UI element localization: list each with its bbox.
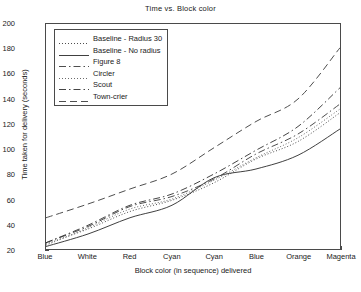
legend-item[interactable]: Scout — [59, 79, 162, 91]
y-axis-label: Time taken for delivery (seconds) — [20, 35, 29, 215]
legend-item[interactable]: Baseline - No radius — [59, 45, 162, 57]
y-tick-label: 80 — [0, 170, 15, 179]
legend-item[interactable]: Baseline - Radius 30 — [59, 33, 162, 45]
series-line — [46, 88, 340, 243]
y-tick-label: 60 — [0, 195, 15, 204]
legend-label: Town-crier — [93, 92, 128, 101]
y-tick-label: 160 — [0, 69, 15, 78]
legend-item[interactable]: Town-crier — [59, 91, 162, 103]
legend-line-swatch — [59, 80, 89, 89]
legend-label: Figure 8 — [93, 57, 121, 66]
legend-line-swatch — [59, 34, 89, 43]
y-tick-mark — [45, 250, 49, 251]
y-tick-label: 140 — [0, 94, 15, 103]
y-tick-label: 100 — [0, 145, 15, 154]
legend-label: Scout — [93, 80, 112, 89]
chart-legend: Baseline - Radius 30Baseline - No radius… — [54, 29, 168, 106]
series-line — [46, 104, 340, 243]
legend-item[interactable]: Circler — [59, 68, 162, 80]
legend-line-swatch — [59, 46, 89, 55]
y-tick-label: 180 — [0, 44, 15, 53]
x-tick-mark — [341, 246, 342, 250]
legend-label: Baseline - No radius — [93, 46, 161, 55]
series-line — [46, 129, 340, 247]
legend-label: Circler — [93, 69, 115, 78]
x-axis-label: Block color (in sequence) delivered — [45, 266, 341, 275]
legend-line-swatch — [59, 92, 89, 101]
chart-title: Time vs. Block color — [0, 4, 361, 13]
legend-line-swatch — [59, 57, 89, 66]
legend-label: Baseline - Radius 30 — [93, 34, 162, 43]
y-tick-label: 20 — [0, 246, 15, 255]
y-tick-label: 40 — [0, 220, 15, 229]
chart-figure: Time vs. Block color Time taken for deli… — [0, 0, 361, 292]
y-tick-label: 200 — [0, 19, 15, 28]
legend-line-swatch — [59, 69, 89, 78]
x-tick-label: Magenta — [311, 252, 361, 261]
legend-item[interactable]: Figure 8 — [59, 56, 162, 68]
y-tick-label: 120 — [0, 119, 15, 128]
series-line — [46, 109, 340, 245]
